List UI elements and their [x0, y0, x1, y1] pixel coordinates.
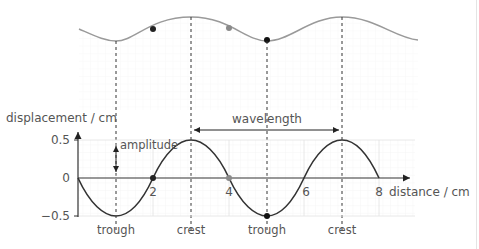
x-tick-label-4: 4	[225, 185, 233, 199]
particle-dot-black	[150, 26, 156, 32]
y-tick-label-05: 0.5	[51, 133, 70, 147]
x-axis-label: distance / cm	[389, 185, 470, 199]
page-edge-divider	[476, 0, 477, 249]
wave-diagram: displacement / cm 0.5 0 −0.5 2 4 6 8 dis…	[0, 0, 479, 249]
crest-label-1: crest	[177, 223, 206, 237]
surface-wave	[79, 17, 418, 110]
trough-label-2: trough	[248, 223, 286, 237]
x-tick-label-8: 8	[375, 185, 383, 199]
trough-label-1: trough	[97, 223, 135, 237]
y-tick-label-0: 0	[62, 171, 70, 185]
surface-fill	[79, 17, 418, 110]
x-tick-label-6: 6	[302, 185, 310, 199]
wavelength-label: wavelength	[232, 112, 302, 126]
point-x4	[226, 175, 232, 181]
crest-label-2: crest	[328, 223, 357, 237]
point-x2	[150, 175, 156, 181]
amplitude-label: amplitude	[120, 138, 178, 152]
x-tick-label-2: 2	[149, 185, 157, 199]
y-axis-label: displacement / cm	[6, 111, 117, 125]
y-tick-label-neg05: −0.5	[41, 209, 70, 223]
point-trough	[264, 213, 270, 219]
particle-dot-grey	[226, 25, 232, 31]
